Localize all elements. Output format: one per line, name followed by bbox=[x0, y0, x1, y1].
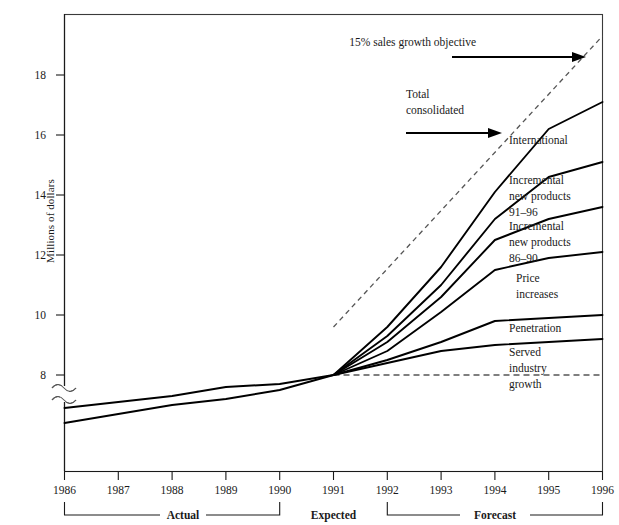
series-label-inc86-line3: 86–90 bbox=[509, 252, 538, 264]
series-label-price-line1: Price bbox=[516, 272, 540, 284]
series-label-price-line2: increases bbox=[516, 288, 559, 300]
series-label-served-line3: growth bbox=[509, 378, 542, 391]
x-tick-label-1995: 1995 bbox=[537, 484, 560, 496]
x-tick-label-1989: 1989 bbox=[214, 484, 237, 496]
objective-annotation-label: 15% sales growth objective bbox=[349, 36, 476, 49]
total-consolidated-annotation-line2: consolidated bbox=[406, 104, 464, 116]
x-tick-label-1986: 1986 bbox=[53, 484, 76, 496]
y-tick-group bbox=[56, 75, 65, 375]
period-label-forecast: Forecast bbox=[474, 509, 516, 521]
total-consolidated-annotation-line1: Total bbox=[406, 88, 429, 100]
y-tick-label-16: 16 bbox=[35, 129, 47, 141]
series-label-inc91-line3: 91–96 bbox=[509, 206, 538, 218]
axis-break-icon bbox=[52, 385, 76, 404]
x-tick-label-1994: 1994 bbox=[483, 484, 506, 496]
x-tick-label-1993: 1993 bbox=[430, 484, 453, 496]
series-label-international: International bbox=[509, 134, 568, 146]
x-tick-label-1992: 1992 bbox=[376, 484, 399, 496]
y-tick-label-18: 18 bbox=[35, 69, 47, 81]
y-axis-title: Millions of dollars bbox=[44, 141, 56, 301]
chart-svg: 18 16 14 12 10 8 1986 1987 bbox=[0, 0, 619, 525]
series-label-inc86-line1: Incremental bbox=[509, 220, 564, 232]
series-label-penetration: Penetration bbox=[509, 322, 562, 334]
objective-annotation-arrow-icon bbox=[452, 52, 586, 62]
period-label-actual: Actual bbox=[167, 509, 200, 521]
series-label-inc86-line2: new products bbox=[509, 236, 571, 249]
x-tick-group bbox=[65, 472, 603, 481]
series-label-inc91-line2: new products bbox=[509, 190, 571, 203]
y-tick-label-10: 10 bbox=[35, 309, 47, 321]
period-label-expected: Expected bbox=[311, 509, 357, 522]
x-tick-label-1987: 1987 bbox=[107, 484, 130, 496]
x-tick-label-1990: 1990 bbox=[268, 484, 291, 496]
chart-canvas: Millions of dollars 18 16 14 12 10 8 bbox=[0, 0, 619, 525]
series-label-served-line1: Served bbox=[509, 346, 541, 358]
series-label-inc91-line1: Incremental bbox=[509, 174, 564, 186]
y-tick-label-8: 8 bbox=[40, 369, 46, 381]
x-tick-label-1988: 1988 bbox=[161, 484, 184, 496]
x-tick-label-1991: 1991 bbox=[322, 484, 345, 496]
x-tick-label-1996: 1996 bbox=[591, 484, 614, 496]
series-label-served-line2: industry bbox=[509, 362, 547, 375]
total-consolidated-annotation-arrow-icon bbox=[406, 128, 502, 138]
